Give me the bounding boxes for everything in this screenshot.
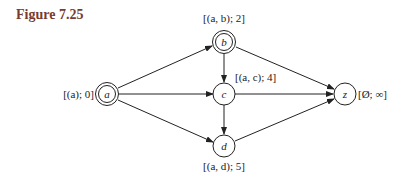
node-d-label: d [221,140,227,152]
edge-a-b [118,46,212,88]
node-c-annotation: [(a, c); 4] [235,71,276,84]
node-d-annotation: [(a, d); 5] [203,160,245,173]
node-b-label: b [221,36,227,48]
node-b-annotation: [(a, b); 2] [203,12,245,25]
node-z-label: z [342,88,348,100]
directed-graph: a b c d z [(a); 0] [(a, b); 2] [(a, c); … [0,0,402,179]
edge-d-z [235,99,334,141]
node-a-annotation: [(a); 0] [63,88,94,101]
node-c-label: c [222,88,227,100]
node-a-label: a [104,88,110,100]
edge-a-d [118,100,213,142]
node-z-annotation: [Ø; ∞] [358,88,387,100]
